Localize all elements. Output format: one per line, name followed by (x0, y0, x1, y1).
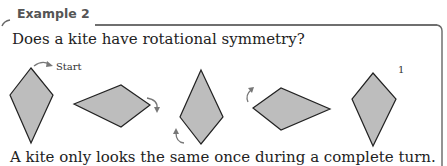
arrow-head-icon (173, 128, 179, 134)
rotate-arrow-icon (176, 133, 184, 143)
example-figure (0, 0, 447, 166)
answer-text: A kite only looks the same once during a… (10, 148, 436, 166)
end-label: 1 (398, 64, 404, 75)
kite-shape-5 (352, 73, 396, 146)
kite-shape-2 (74, 85, 150, 127)
example-box: Example 2 Does a kite have rotational sy… (0, 0, 447, 166)
question-text: Does a kite have rotational symmetry? (12, 30, 305, 48)
kite-shape-1 (10, 68, 53, 143)
start-label: Start (56, 61, 82, 72)
kite-shape-3 (180, 70, 223, 144)
arrow-head-icon (154, 107, 160, 113)
arrow-head-icon (46, 61, 53, 67)
kite-shape-4 (253, 88, 330, 130)
rotate-arrow-icon (247, 90, 251, 102)
example-label: Example 2 (17, 6, 90, 21)
